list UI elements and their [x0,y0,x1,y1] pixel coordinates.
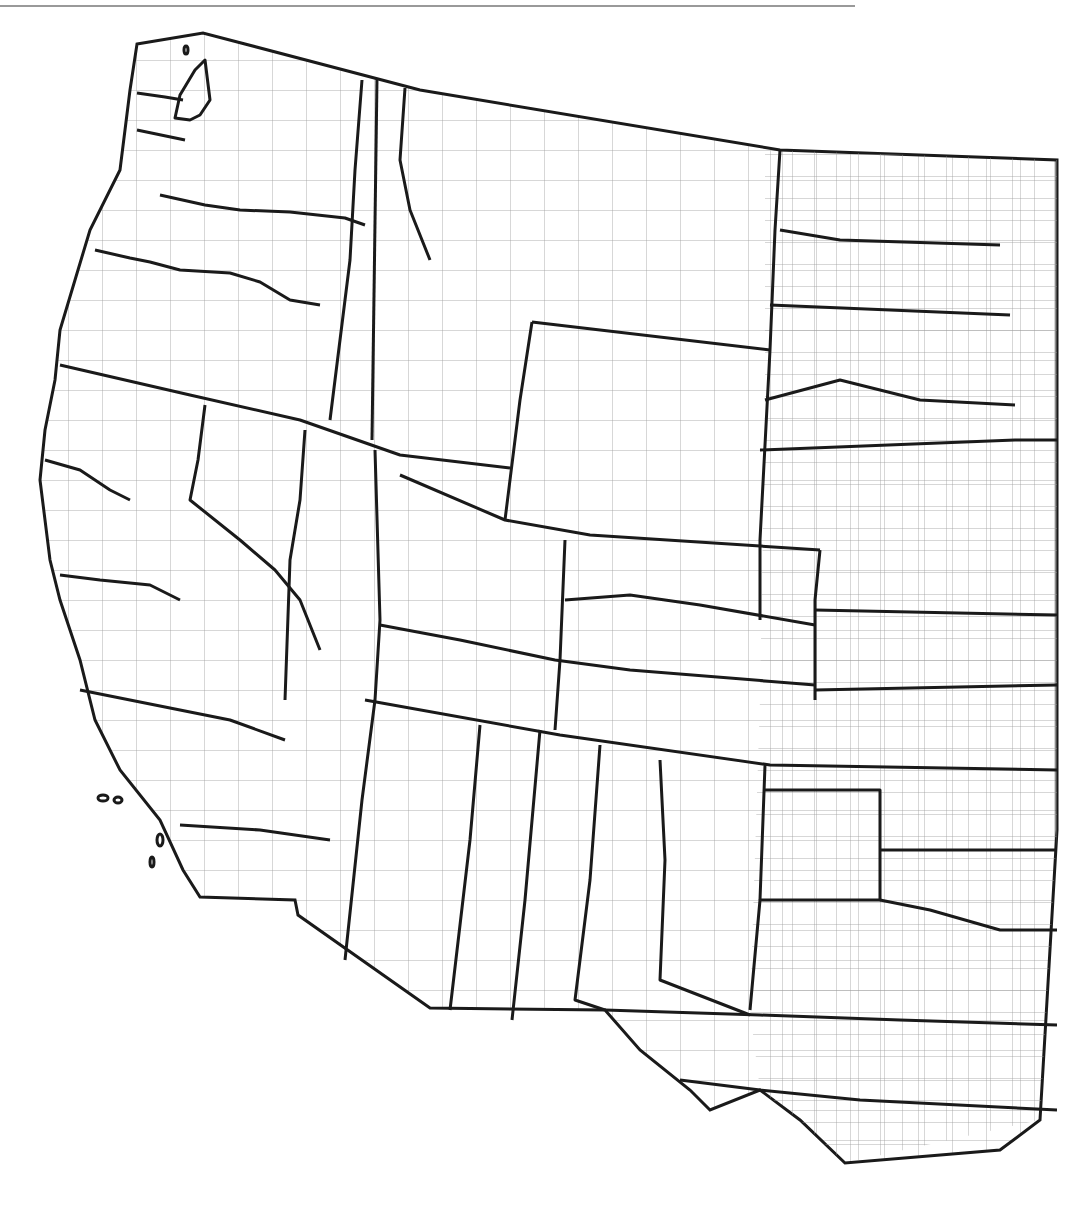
dense-county-area [750,150,1057,1163]
western-us-map [0,0,1089,1219]
